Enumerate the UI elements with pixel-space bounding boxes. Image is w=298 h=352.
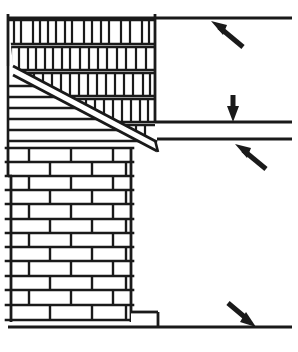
footing-step: [131, 312, 158, 327]
diagram-canvas: [0, 0, 298, 352]
footing-step-face: [131, 312, 158, 327]
lower-running-bond-wall: [6, 147, 133, 323]
masonry-wall-diagram: Masonry cavity wall section with stepped…: [0, 0, 298, 352]
